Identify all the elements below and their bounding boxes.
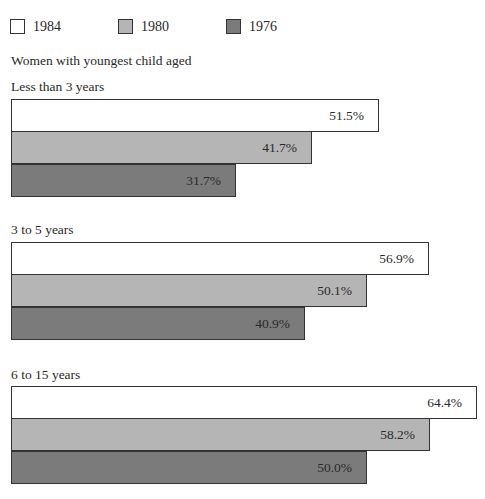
group-label: 6 to 15 years	[11, 367, 80, 383]
bar-value: 56.9%	[379, 251, 414, 267]
legend-label: 1976	[249, 19, 277, 35]
legend-label: 1984	[33, 19, 61, 35]
legend-item-1980: 1980	[118, 18, 169, 35]
bar-1976: 40.9%	[11, 307, 305, 340]
bar-1980: 41.7%	[11, 131, 312, 164]
bar-1976: 31.7%	[11, 164, 236, 197]
bar-value: 50.0%	[317, 460, 352, 476]
bar-1976: 50.0%	[11, 451, 367, 484]
legend-swatch-1976	[226, 19, 241, 34]
bar-1980: 58.2%	[11, 418, 430, 451]
bar-value: 41.7%	[262, 140, 297, 156]
legend-label: 1980	[141, 19, 169, 35]
legend-swatch-1980	[118, 19, 133, 34]
bar-value: 58.2%	[380, 427, 415, 443]
bar-value: 50.1%	[317, 283, 352, 299]
bar-value: 31.7%	[186, 173, 221, 189]
chart-subtitle: Women with youngest child aged	[11, 53, 191, 69]
bar-value: 64.4%	[427, 395, 462, 411]
group-label: 3 to 5 years	[11, 222, 74, 238]
group-label: Less than 3 years	[11, 79, 104, 95]
bar-1984: 64.4%	[11, 386, 477, 419]
legend-item-1984: 1984	[10, 18, 61, 35]
bar-1984: 56.9%	[11, 242, 429, 275]
bar-value: 51.5%	[329, 108, 364, 124]
legend-item-1976: 1976	[226, 18, 277, 35]
legend-swatch-1984	[10, 19, 25, 34]
bar-1980: 50.1%	[11, 274, 367, 307]
bar-value: 40.9%	[255, 316, 290, 332]
bar-1984: 51.5%	[11, 99, 379, 132]
